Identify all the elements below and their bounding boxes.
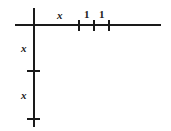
vertical-axis-line [33, 8, 35, 127]
vertical-axis-tick-1 [27, 70, 40, 72]
axes-diagram: x 1 1 x x [0, 0, 171, 131]
horizontal-segment-label-x: x [57, 10, 63, 21]
vertical-segment-label-x-lower: x [21, 90, 27, 101]
horizontal-axis-line [15, 24, 161, 26]
vertical-segment-label-x-upper: x [21, 43, 27, 54]
horizontal-axis-tick-3 [108, 20, 110, 31]
horizontal-axis-tick-1 [78, 20, 80, 31]
horizontal-axis-tick-2 [93, 20, 95, 31]
horizontal-segment-label-one-first: 1 [84, 9, 90, 20]
vertical-axis-tick-2 [27, 118, 40, 120]
horizontal-segment-label-one-second: 1 [99, 9, 105, 20]
